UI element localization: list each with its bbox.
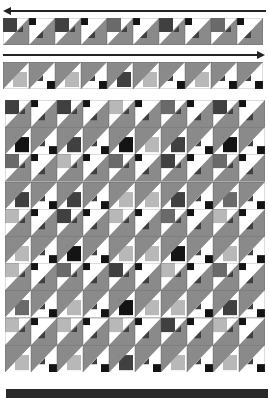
quilt-block [5,100,31,127]
quilt-block [213,290,239,317]
quilt-block [83,100,109,127]
quilt-block [161,127,187,154]
quilt-block [83,318,109,345]
quilt-block [187,154,213,181]
quilt-block [109,209,135,236]
quilt-row [5,209,265,236]
quilt-block [213,127,239,154]
quilt-block [83,345,109,372]
quilt-block [83,127,109,154]
quilt-block [83,154,109,181]
quilt-block [187,182,213,209]
quilt-row [5,345,265,372]
quilt-row [5,318,265,345]
quilt-block [109,154,135,181]
quilt-row [5,290,265,317]
quilt-block [83,236,109,263]
quilt-block [135,263,161,290]
quilt-block [31,263,57,290]
quilt-block [135,209,161,236]
quilt-block [57,345,83,372]
arrow-right-icon [257,51,265,59]
quilt-block [81,62,107,89]
quilt-block [57,209,83,236]
quilt-block [5,318,31,345]
quilt-block [31,154,57,181]
quilt-block [83,263,109,290]
quilt-grid [5,100,265,372]
quilt-block [161,290,187,317]
quilt-block [161,209,187,236]
quilt-block [5,263,31,290]
quilt-block [31,236,57,263]
quilt-block [135,345,161,372]
quilt-block [109,263,135,290]
quilt-block [185,18,211,45]
quilt-block [135,182,161,209]
quilt-block [31,290,57,317]
quilt-block [239,182,265,209]
quilt-block [109,100,135,127]
quilt-block [161,345,187,372]
quilt-block [187,209,213,236]
quilt-block [213,209,239,236]
quilt-block [55,18,81,45]
quilt-block [55,62,81,89]
strip-bottom [3,62,263,89]
quilt-row [5,182,265,209]
quilt-block [31,318,57,345]
arrow-left-icon [3,7,11,15]
quilt-block [31,209,57,236]
quilt-block [31,127,57,154]
quilt-block [31,100,57,127]
quilt-block [239,100,265,127]
quilt-block [109,290,135,317]
strip-top [3,18,263,45]
quilt-block [239,263,265,290]
quilt-block [187,127,213,154]
quilt-block [109,127,135,154]
quilt-block [159,18,185,45]
quilt-block [109,182,135,209]
quilt-block [161,100,187,127]
quilt-block [31,345,57,372]
quilt-block [133,18,159,45]
quilt-block [239,290,265,317]
quilt-block [213,263,239,290]
quilt-block [239,318,265,345]
quilt-block [213,345,239,372]
quilt-block [83,182,109,209]
quilt-block [57,263,83,290]
quilt-block [159,62,185,89]
quilt-block [187,263,213,290]
quilt-block [237,62,263,89]
quilt-block [5,209,31,236]
quilt-block [239,209,265,236]
quilt-block [81,18,107,45]
quilt-block [109,345,135,372]
quilt-block [161,236,187,263]
quilt-row [5,154,265,181]
quilt-block [57,290,83,317]
quilt-block [5,290,31,317]
quilt-block [135,290,161,317]
quilt-block [57,182,83,209]
quilt-block [135,127,161,154]
quilt-block [83,209,109,236]
quilt-block [31,182,57,209]
arrow-left-line [10,10,266,12]
quilt-block [135,318,161,345]
quilt-block [133,62,159,89]
quilt-block [109,318,135,345]
quilt-row [5,236,265,263]
quilt-block [107,18,133,45]
quilt-block [57,100,83,127]
quilt-block [5,236,31,263]
quilt-block [5,127,31,154]
quilt-block [213,182,239,209]
quilt-block [135,100,161,127]
quilt-block [3,18,29,45]
quilt-block [237,18,263,45]
quilt-block [29,18,55,45]
quilt-row [5,100,265,127]
